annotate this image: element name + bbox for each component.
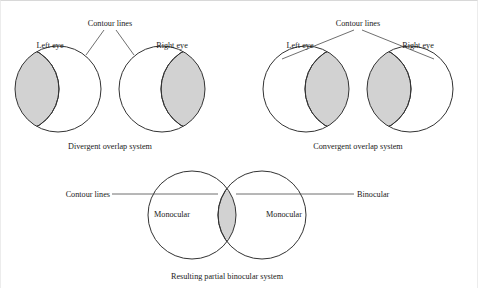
figure-root: Contour lines Left eye Right eye Diverge… [0,0,478,288]
convergent-caption: Convergent overlap system [313,142,403,151]
convergent-contour-lines-label: Contour lines [336,19,380,28]
resulting-caption: Resulting partial binocular system [171,272,284,281]
divergent-leader-left [86,30,104,55]
convergent-right-eye-label: Right eye [402,41,434,50]
panel-divergent: Contour lines Left eye Right eye Diverge… [0,8,230,160]
divergent-right-eye-label: Right eye [156,41,188,50]
divergent-right-shade [161,46,230,132]
resulting-contour-lines-label: Contour lines [66,190,110,199]
panel-convergent: Contour lines Left eye Right eye Converg… [248,8,478,160]
divergent-left-shade [0,46,59,132]
panel-resulting: Contour lines Binocular Monocular Monocu… [60,163,420,288]
convergent-left-eye-label: Left eye [286,41,313,50]
resulting-monocular-right-label: Monocular [266,210,302,219]
divergent-contour-lines-label: Contour lines [88,19,132,28]
divergent-leader-right [116,30,134,55]
resulting-binocular-label: Binocular [357,190,390,199]
resulting-monocular-left-label: Monocular [154,210,190,219]
divergent-caption: Divergent overlap system [68,142,153,151]
divergent-left-eye-label: Left eye [36,41,63,50]
